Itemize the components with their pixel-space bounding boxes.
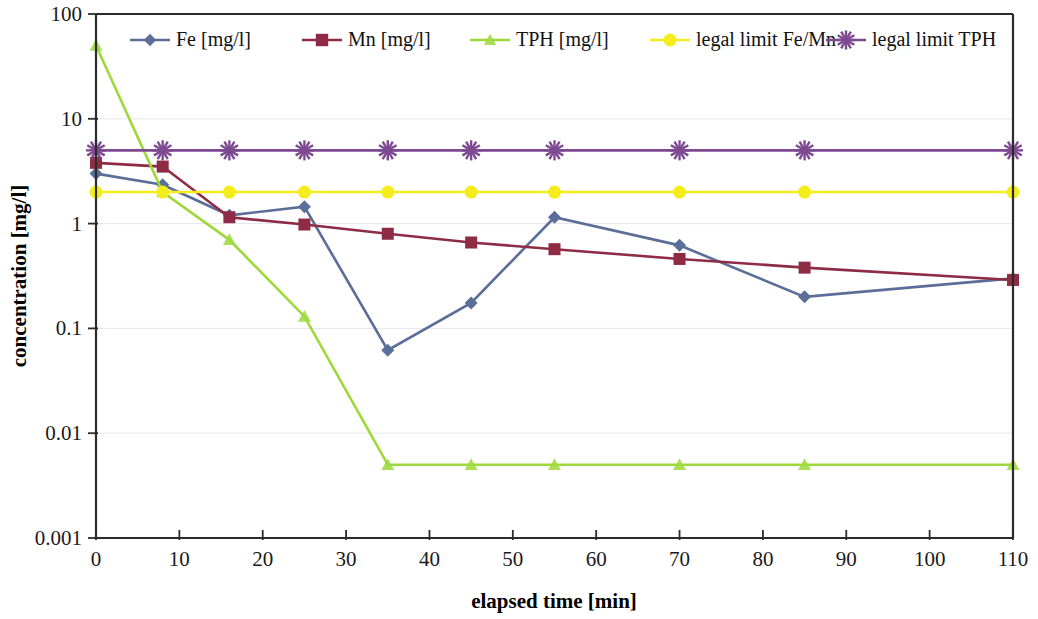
legend-marker (664, 34, 677, 47)
x-tick-label: 60 (586, 547, 607, 571)
data-point (223, 186, 236, 199)
y-axis-title: concentration [mg/l] (7, 185, 31, 368)
y-tick-label: 0.01 (45, 421, 82, 445)
legend-label: Fe [mg/l] (176, 28, 251, 51)
chart-container: 1001010.10.010.0010102030405060708090100… (0, 0, 1038, 619)
legend-label: Mn [mg/l] (348, 28, 431, 51)
x-tick-label: 50 (502, 547, 523, 571)
data-point (223, 211, 235, 223)
data-point (549, 243, 561, 255)
data-point (548, 186, 561, 199)
data-point (465, 237, 477, 249)
data-point (673, 186, 686, 199)
y-tick-label: 10 (61, 107, 82, 131)
legend-label: legal limit TPH (872, 28, 996, 51)
y-tick-label: 1 (72, 212, 83, 236)
data-point (798, 186, 811, 199)
data-point (465, 186, 478, 199)
x-tick-label: 10 (169, 547, 190, 571)
legend-label: legal limit Fe/Mn (696, 28, 836, 51)
x-tick-label: 80 (752, 547, 773, 571)
y-tick-label: 100 (51, 2, 83, 26)
x-tick-label: 110 (998, 547, 1029, 571)
x-tick-label: 40 (419, 547, 440, 571)
data-point (298, 186, 311, 199)
data-point (156, 186, 169, 199)
x-tick-label: 20 (252, 547, 273, 571)
data-point (382, 228, 394, 240)
y-tick-label: 0.1 (56, 316, 82, 340)
x-axis-title: elapsed time [min] (471, 589, 637, 613)
data-point (381, 186, 394, 199)
chart-background (0, 0, 1038, 619)
x-tick-label: 0 (91, 547, 102, 571)
x-tick-label: 100 (914, 547, 946, 571)
legend-marker (316, 34, 328, 46)
line-chart: 1001010.10.010.0010102030405060708090100… (0, 0, 1038, 619)
legend-label: TPH [mg/l] (516, 28, 609, 51)
x-tick-label: 90 (836, 547, 857, 571)
data-point (799, 262, 811, 274)
data-point (298, 219, 310, 231)
data-point (674, 253, 686, 265)
x-tick-label: 70 (669, 547, 690, 571)
data-point (157, 161, 169, 173)
y-tick-label: 0.001 (35, 526, 82, 550)
x-tick-label: 30 (336, 547, 357, 571)
